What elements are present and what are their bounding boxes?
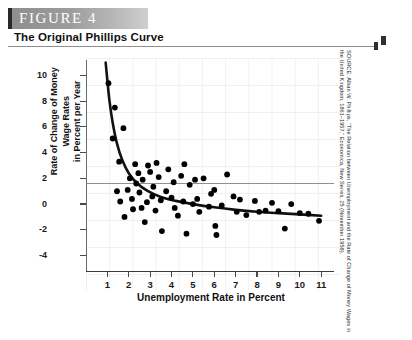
data-point	[117, 199, 123, 205]
data-point	[190, 201, 196, 207]
data-point	[192, 177, 198, 183]
data-point	[142, 219, 148, 225]
data-point	[156, 174, 162, 180]
data-point	[224, 172, 230, 178]
x-axis-title: Unemployment Rate in Percent	[86, 292, 336, 303]
figure-banner: FIGURE 4	[8, 8, 148, 29]
data-point	[211, 187, 217, 193]
data-point	[181, 161, 187, 167]
data-point	[256, 209, 262, 215]
figure-number-label: FIGURE 4	[19, 10, 97, 27]
y-axis-tick-label: 2	[25, 173, 47, 183]
data-point	[206, 204, 212, 210]
y-axis-tick-label: -4	[25, 250, 47, 260]
data-point	[297, 210, 303, 216]
data-point	[219, 202, 225, 208]
data-point	[122, 214, 128, 220]
data-point	[159, 228, 165, 234]
y-axis-tick-label: 10	[25, 70, 47, 80]
data-point	[175, 213, 181, 219]
data-point	[137, 190, 143, 196]
data-point	[169, 195, 175, 201]
data-point	[263, 208, 269, 214]
y-axis-tick-label: 0	[25, 199, 47, 209]
data-point	[133, 181, 139, 187]
data-point	[172, 205, 178, 211]
data-point	[316, 218, 322, 224]
data-point	[288, 201, 294, 207]
data-point	[140, 177, 146, 183]
y-axis-tick-label: -2	[25, 224, 47, 234]
data-point	[130, 206, 136, 212]
data-point	[269, 200, 275, 206]
figure-banner-accent-bar	[8, 8, 12, 29]
data-point	[135, 170, 141, 176]
data-point	[276, 208, 282, 214]
source-note: SOURCE: Alban W. Phillips, “The Relation…	[337, 50, 352, 336]
data-point	[184, 231, 190, 237]
figure-title: The Original Phillips Curve	[14, 31, 164, 43]
data-point	[154, 160, 160, 166]
title-divider-end-marker	[374, 42, 378, 50]
data-point	[305, 211, 311, 217]
data-point	[114, 188, 120, 194]
data-point	[180, 199, 186, 205]
data-point	[214, 232, 220, 238]
data-point	[127, 175, 133, 181]
data-point	[243, 212, 249, 218]
data-point	[149, 193, 155, 199]
data-point	[178, 173, 184, 179]
data-point	[147, 169, 153, 175]
y-axis-tick-label: 6	[25, 121, 47, 131]
data-point	[145, 163, 151, 169]
data-point	[144, 199, 150, 205]
data-point	[132, 161, 138, 167]
title-divider	[8, 46, 378, 47]
data-point	[201, 175, 207, 181]
data-point	[121, 125, 127, 131]
data-point	[139, 205, 145, 211]
phillips-curve-chart: 1086420-2-4 1234567891011 Rate of Change…	[50, 58, 340, 290]
data-point	[252, 198, 258, 204]
y-axis-tick-label: 4	[25, 147, 47, 157]
data-point	[196, 209, 202, 215]
data-point	[237, 197, 243, 203]
data-point	[171, 179, 177, 185]
data-point	[129, 196, 135, 202]
data-point	[150, 184, 156, 190]
data-point	[110, 136, 116, 142]
data-point	[112, 105, 118, 111]
data-point	[106, 80, 112, 86]
data-point	[194, 196, 200, 202]
data-point	[158, 197, 164, 203]
data-point	[187, 182, 193, 188]
scatter-plot-layer	[50, 58, 340, 290]
data-point	[153, 208, 159, 214]
source-note-marker	[381, 36, 386, 45]
data-point	[231, 193, 237, 199]
data-point	[163, 188, 169, 194]
y-axis-tick-label: 8	[25, 96, 47, 106]
data-point	[125, 187, 131, 193]
data-point	[212, 223, 218, 229]
data-point	[165, 166, 171, 172]
data-point	[234, 209, 240, 215]
data-point	[116, 159, 122, 165]
data-point	[282, 226, 288, 232]
